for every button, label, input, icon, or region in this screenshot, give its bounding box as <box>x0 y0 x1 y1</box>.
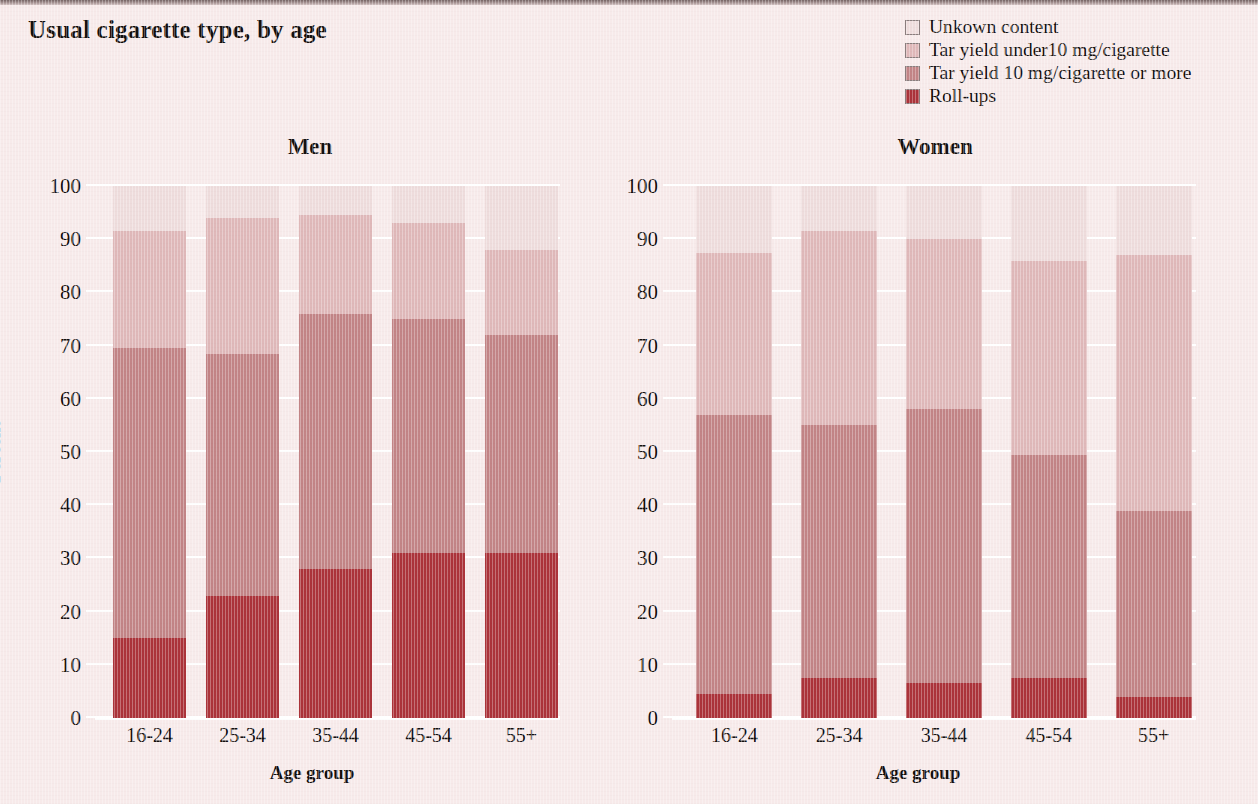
legend-item-label: Tar yield 10 mg/cigarette or more <box>929 63 1191 83</box>
legend-item: Tar yield 10 mg/cigarette or more <box>905 62 1255 84</box>
plot-area-women: 010203040506070809010016-2425-3435-4445-… <box>672 186 1196 720</box>
x-axis-tick-label: 45-54 <box>1025 724 1072 747</box>
x-axis-tick-label: 35-44 <box>921 724 968 747</box>
legend-item: Tar yield under10 mg/cigarette <box>905 39 1255 61</box>
chart-legend: Unkown contentTar yield under10 mg/cigar… <box>905 16 1255 108</box>
y-axis-tick-label: 10 <box>637 652 658 677</box>
bar-segment <box>113 231 186 348</box>
bar-segment <box>485 553 558 718</box>
bar-segment <box>801 186 877 231</box>
stacked-bar <box>1116 186 1192 718</box>
stacked-bar <box>485 186 558 718</box>
chart-panel-men: 010203040506070809010016-2425-3435-4445-… <box>62 186 562 726</box>
y-axis-title-men: Percent <box>0 421 5 483</box>
bar-segment <box>206 354 279 596</box>
chart-panel-women: 010203040506070809010016-2425-3435-4445-… <box>638 186 1198 726</box>
bar-segment <box>801 231 877 425</box>
panel-title-men: Men <box>180 134 440 160</box>
y-axis-tick-label: 90 <box>60 227 81 252</box>
stacked-bar <box>392 186 465 718</box>
bar-segment <box>206 596 279 718</box>
bar-segment <box>801 678 877 718</box>
x-axis-tick-label: 55+ <box>506 724 537 747</box>
y-axis-tick-label: 70 <box>637 333 658 358</box>
legend-item-label: Roll-ups <box>929 86 996 106</box>
legend-item: Roll-ups <box>905 85 1255 107</box>
legend-swatch-icon <box>905 43 920 58</box>
x-axis-title-men: Age group <box>62 762 562 784</box>
bar-segment <box>485 250 558 335</box>
bar-segment <box>485 186 558 250</box>
bar-segment <box>1011 261 1087 455</box>
x-axis-tick-label: 25-34 <box>219 724 266 747</box>
y-axis-tick-label: 100 <box>627 174 659 199</box>
x-axis-tick-label: 35-44 <box>312 724 359 747</box>
y-axis-tick-label: 60 <box>637 386 658 411</box>
bar-segment <box>906 239 982 409</box>
stacked-bar <box>801 186 877 718</box>
bar-segment <box>299 314 372 569</box>
page-top-rule <box>0 0 1258 5</box>
stacked-bar <box>696 186 772 718</box>
bar-segment <box>696 186 772 253</box>
bar-segment <box>113 186 186 231</box>
x-axis-title-women: Age group <box>638 762 1198 784</box>
stacked-bar <box>906 186 982 718</box>
bar-segment <box>392 553 465 718</box>
bar-segment <box>1116 511 1192 697</box>
y-axis-tick-label: 40 <box>637 493 658 518</box>
bar-segment <box>906 683 982 718</box>
bar-segment <box>392 319 465 553</box>
y-axis-tick-label: 90 <box>637 227 658 252</box>
bar-segment <box>392 223 465 319</box>
y-axis-tick-label: 20 <box>60 599 81 624</box>
figure-page: Usual cigarette type, by age Unkown cont… <box>0 0 1258 804</box>
bar-segment <box>113 638 186 718</box>
y-axis-tick-label: 60 <box>60 386 81 411</box>
bar-segment <box>1011 455 1087 678</box>
x-axis-tick-label: 55+ <box>1138 724 1169 747</box>
y-axis-tick-label: 0 <box>648 706 659 731</box>
bar-segment <box>206 186 279 218</box>
legend-item-label: Unkown content <box>929 17 1058 37</box>
y-axis-tick-label: 30 <box>637 546 658 571</box>
legend-swatch-icon <box>905 89 920 104</box>
bar-segment <box>696 694 772 718</box>
y-axis-tick-label: 0 <box>71 706 82 731</box>
page-title: Usual cigarette type, by age <box>28 16 327 44</box>
x-axis-tick-label: 45-54 <box>405 724 452 747</box>
bar-segment <box>485 335 558 553</box>
bar-segment <box>1116 186 1192 255</box>
x-axis-tick-label: 16-24 <box>126 724 173 747</box>
stacked-bar <box>206 186 279 718</box>
y-axis-tick-label: 40 <box>60 493 81 518</box>
bar-segment <box>1011 186 1087 260</box>
plot-area-men: 010203040506070809010016-2425-3435-4445-… <box>95 186 560 720</box>
y-axis-tick-label: 100 <box>50 174 82 199</box>
legend-item-label: Tar yield under10 mg/cigarette <box>929 40 1170 60</box>
bar-segment <box>206 218 279 354</box>
bar-segment <box>299 569 372 718</box>
y-axis-tick-label: 80 <box>60 280 81 305</box>
stacked-bar <box>299 186 372 718</box>
legend-swatch-icon <box>905 66 920 81</box>
y-axis-tick-label: 50 <box>60 440 81 465</box>
y-axis-tick-label: 10 <box>60 652 81 677</box>
bar-segment <box>696 415 772 694</box>
bar-segment <box>299 215 372 313</box>
x-axis-tick-label: 25-34 <box>816 724 863 747</box>
bar-segment <box>801 425 877 678</box>
bar-segment <box>1116 697 1192 718</box>
bar-segment <box>906 186 982 239</box>
y-axis-tick-label: 80 <box>637 280 658 305</box>
stacked-bar <box>113 186 186 718</box>
legend-swatch-icon <box>905 20 920 35</box>
bar-segment <box>1116 255 1192 510</box>
y-axis-tick-label: 70 <box>60 333 81 358</box>
bar-segment <box>696 253 772 415</box>
y-axis-tick-label: 30 <box>60 546 81 571</box>
bar-segment <box>906 409 982 683</box>
x-axis-tick-label: 16-24 <box>711 724 758 747</box>
bar-segment <box>113 348 186 638</box>
bar-segment <box>299 186 372 215</box>
